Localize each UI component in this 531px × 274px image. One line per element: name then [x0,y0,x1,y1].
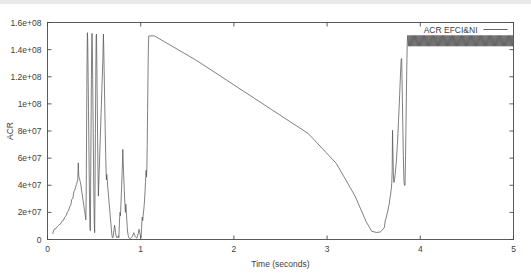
y-tick-label: 1e+08 [18,99,42,109]
x-tick-label: 0 [45,244,50,254]
y-axis-title: ACR [5,122,15,140]
chart-figure: 012345 02e+074e+076e+078e+071e+081.2e+08… [0,0,531,274]
y-tick-label: 6e+07 [18,153,42,163]
legend-entry-label: ACR EFCI&NI [424,25,478,35]
y-tick-label: 1.2e+08 [11,72,42,82]
y-axis-ticks [48,23,514,240]
x-tick-label: 2 [232,244,237,254]
acr-vs-time-line-chart: 012345 02e+074e+076e+078e+071e+081.2e+08… [0,0,531,274]
y-tick-label: 0 [37,235,42,245]
y-axis-tick-labels: 02e+074e+076e+078e+071e+081.2e+081.4e+08… [11,18,42,245]
y-tick-label: 1.4e+08 [11,45,42,55]
x-tick-label: 4 [418,244,423,254]
y-tick-label: 4e+07 [18,180,42,190]
legend: ACR EFCI&NI [424,25,508,35]
x-tick-label: 5 [511,244,516,254]
plot-area: 012345 02e+074e+076e+078e+071e+081.2e+08… [11,18,517,254]
y-tick-label: 2e+07 [18,207,42,217]
axis-titles: Time (seconds) ACR [5,122,310,268]
data-series-line [53,33,514,239]
x-axis-tick-labels: 012345 [45,244,516,254]
y-tick-label: 8e+07 [18,126,42,136]
plot-frame [48,23,514,240]
x-tick-label: 3 [325,244,330,254]
x-axis-ticks [48,23,514,240]
x-axis-title: Time (seconds) [251,259,309,269]
y-tick-label: 1.6e+08 [11,18,42,28]
x-tick-label: 1 [138,244,143,254]
